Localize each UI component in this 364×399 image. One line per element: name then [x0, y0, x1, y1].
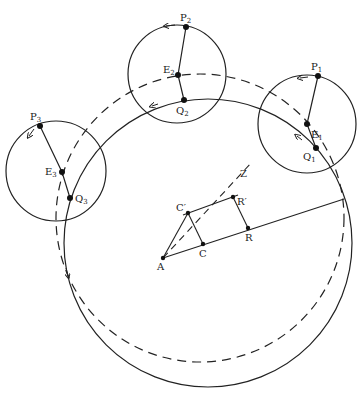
label-Z: Z — [240, 168, 247, 179]
label-E2: E2 — [163, 64, 175, 77]
label-A: A — [156, 261, 165, 272]
arrow-epicycle-3-icon — [29, 129, 34, 136]
label-R: R — [245, 232, 253, 243]
epicycle-diagram: P1 E1 Q1 P2 E2 Q2 P3 E3 Q3 A C R C′ R′ Z — [0, 0, 364, 399]
arrow-solid-deferent-top-icon — [152, 104, 158, 106]
arrow-epicycle-1-icon — [300, 77, 308, 78]
line-C-prime-R-prime — [183, 195, 238, 215]
arrow-solid-deferent-right-icon — [297, 136, 302, 140]
label-Q3: Q3 — [75, 193, 88, 206]
label-Q2: Q2 — [176, 105, 189, 118]
label-P1: P1 — [311, 61, 322, 74]
arrow-epicycle-2-icon — [166, 25, 175, 26]
label-P3: P3 — [30, 111, 41, 124]
radius-2 — [178, 27, 186, 100]
radius-3 — [40, 126, 70, 198]
label-C-prime: C′ — [176, 202, 187, 213]
label-R-prime: R′ — [237, 196, 248, 207]
label-C: C — [199, 248, 207, 259]
label-Q1: Q1 — [303, 151, 316, 164]
label-P2: P2 — [180, 12, 191, 25]
label-E3: E3 — [45, 166, 57, 179]
